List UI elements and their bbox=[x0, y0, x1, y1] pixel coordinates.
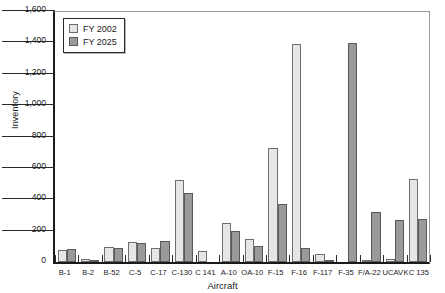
bar-group bbox=[125, 242, 148, 262]
bar bbox=[418, 219, 427, 262]
bar bbox=[409, 179, 418, 262]
bar bbox=[278, 204, 287, 262]
bar-chart: Inventory 02004006008001,0001,2001,4001,… bbox=[0, 0, 445, 293]
bar bbox=[128, 242, 137, 262]
bar bbox=[386, 259, 395, 262]
y-tick-label: 1,000 bbox=[2, 98, 46, 108]
bar-group bbox=[149, 241, 172, 262]
bar-group bbox=[196, 251, 219, 262]
y-tick-label: 1,200 bbox=[2, 67, 46, 77]
bar bbox=[137, 243, 146, 262]
y-tick-label: 400 bbox=[2, 192, 46, 202]
legend-swatch-icon bbox=[69, 37, 78, 46]
bar-group bbox=[78, 259, 101, 262]
x-axis-tick-label: KC 135 bbox=[397, 268, 435, 277]
bar bbox=[151, 248, 160, 262]
x-axis-tick bbox=[289, 255, 290, 262]
x-axis-tick bbox=[383, 255, 384, 262]
bar bbox=[104, 247, 113, 262]
bar bbox=[114, 248, 123, 262]
y-tick-label: 200 bbox=[2, 224, 46, 234]
legend-label: FY 2002 bbox=[83, 24, 117, 34]
bar bbox=[254, 246, 263, 262]
x-axis-tick bbox=[196, 255, 197, 262]
x-axis-tick bbox=[430, 255, 431, 262]
x-axis-title: Aircraft bbox=[0, 280, 445, 291]
x-axis-tick bbox=[407, 255, 408, 262]
y-tick-label: 600 bbox=[2, 161, 46, 171]
bar-group bbox=[336, 43, 359, 262]
y-tick-label: 1,600 bbox=[2, 4, 46, 14]
y-tick-label: 800 bbox=[2, 130, 46, 140]
bar bbox=[362, 260, 371, 262]
bar bbox=[315, 254, 324, 262]
x-axis-tick bbox=[313, 255, 314, 262]
legend-swatch-icon bbox=[69, 24, 78, 33]
bar-group bbox=[383, 220, 406, 262]
bar-group bbox=[102, 247, 125, 262]
legend-entry-fy2002: FY 2002 bbox=[69, 22, 117, 35]
bar-group bbox=[360, 212, 383, 262]
x-axis-tick bbox=[266, 255, 267, 262]
bar bbox=[90, 260, 99, 262]
bar-group bbox=[407, 179, 430, 262]
x-axis-tick bbox=[149, 255, 150, 262]
bar bbox=[325, 260, 334, 262]
bar-group bbox=[172, 180, 195, 262]
x-axis-tick bbox=[219, 255, 220, 262]
chart-legend: FY 2002 FY 2025 bbox=[63, 18, 125, 53]
bar bbox=[395, 220, 404, 262]
y-tick-label: 1,400 bbox=[2, 35, 46, 45]
bar bbox=[184, 193, 193, 262]
bar-group bbox=[55, 249, 78, 262]
y-tick-label: 0 bbox=[2, 255, 46, 265]
bar bbox=[198, 251, 207, 262]
x-axis-tick bbox=[172, 255, 173, 262]
bar bbox=[175, 180, 184, 262]
x-axis-tick bbox=[336, 255, 337, 262]
bar bbox=[292, 44, 301, 262]
bar bbox=[231, 231, 240, 262]
legend-label: FY 2025 bbox=[83, 37, 117, 47]
x-axis-tick bbox=[243, 255, 244, 262]
x-axis-tick bbox=[125, 255, 126, 262]
bar bbox=[268, 148, 277, 262]
bar bbox=[81, 259, 90, 262]
x-axis-tick bbox=[102, 255, 103, 262]
legend-entry-fy2025: FY 2025 bbox=[69, 35, 117, 48]
x-axis-tick bbox=[360, 255, 361, 262]
bar bbox=[160, 241, 169, 262]
bar-group bbox=[289, 44, 312, 262]
bar bbox=[348, 43, 357, 262]
x-axis-tick bbox=[55, 255, 56, 262]
x-axis-tick bbox=[78, 255, 79, 262]
bar bbox=[371, 212, 380, 262]
bar-group bbox=[219, 223, 242, 262]
bar bbox=[301, 248, 310, 262]
bar bbox=[58, 250, 67, 262]
bar bbox=[222, 223, 231, 262]
bar-group bbox=[243, 239, 266, 262]
bar-group bbox=[313, 254, 336, 262]
bar bbox=[67, 249, 76, 262]
bar-group bbox=[266, 148, 289, 262]
bar bbox=[245, 239, 254, 262]
